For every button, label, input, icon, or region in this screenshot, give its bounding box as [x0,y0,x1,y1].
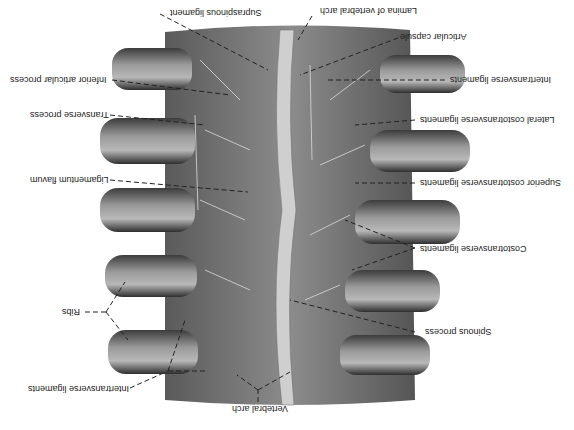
label-costotransverse-ligaments: Costotransverse ligaments [420,244,527,254]
label-transverse-process: Transverse process [30,110,109,120]
label-ribs: Ribs [62,307,80,317]
label-supraspinous-ligament: Supraspinous ligament [170,8,262,18]
label-spinous-process: Spinous process [425,327,492,337]
label-articular-capsule: Articular capsule [400,32,467,42]
label-ligamentum-flavum: Ligamentum flavum [30,175,109,185]
label-lateral-costotransverse-ligaments: Lateral costotransverse ligaments [420,115,555,125]
label-vertebral-arch: Vertebral arch [232,404,288,414]
label-superior-costotransverse-ligaments: Superior costotransverse ligaments [420,178,561,188]
label-intertransverse-ligaments-bottom: Intertransverse ligaments [28,384,129,394]
label-intertransverse-ligaments-top: Intertransverse ligaments [450,75,551,85]
anatomy-figure: Supraspinous ligament Lamina of vertebra… [0,0,574,430]
label-inferior-articular-process: Inferior articular process [10,75,107,85]
spine-illustration [0,0,574,430]
label-lamina-of-vertebral-arch: Lamina of vertebral arch [320,6,417,16]
